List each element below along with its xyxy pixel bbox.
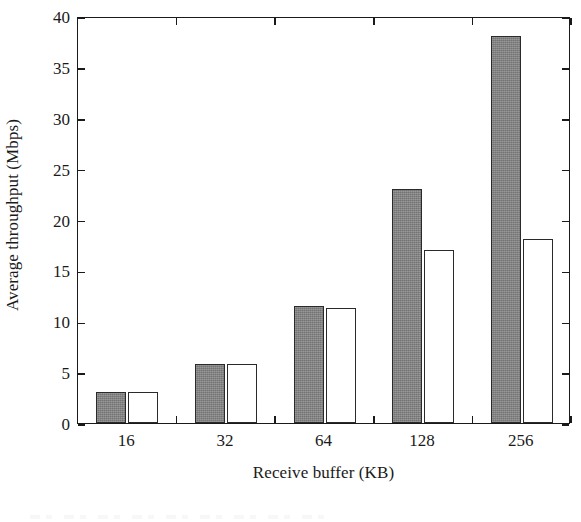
x-tick-mark <box>176 416 178 423</box>
x-tick-label: 64 <box>289 432 359 449</box>
y-tick-mark <box>78 272 85 274</box>
y-tick-mark <box>78 373 85 375</box>
bar-64-series-2-white <box>326 308 356 423</box>
bar-128-series-2-white <box>424 250 454 423</box>
y-axis-tick-labels: 0510152025303540 <box>28 0 70 522</box>
bar-16-series-1-gray <box>96 392 126 423</box>
y-tick-mark <box>78 323 85 325</box>
x-tick-label: 16 <box>91 432 161 449</box>
x-tick-mark <box>274 18 276 25</box>
x-tick-mark <box>570 416 572 423</box>
y-tick-mark <box>562 373 569 375</box>
bar-64-series-1-gray <box>294 306 324 423</box>
x-tick-mark <box>373 416 375 423</box>
bar-32-series-1-gray <box>195 364 225 423</box>
x-tick-mark <box>472 416 474 423</box>
x-tick-mark <box>472 18 474 25</box>
x-axis-title: Receive buffer (KB) <box>77 463 570 483</box>
y-tick-mark <box>78 221 85 223</box>
y-tick-label: 0 <box>28 416 70 433</box>
x-tick-mark <box>373 18 375 25</box>
y-tick-label: 40 <box>28 9 70 26</box>
y-tick-mark <box>562 170 569 172</box>
y-tick-label: 20 <box>28 212 70 229</box>
y-tick-mark <box>562 272 569 274</box>
y-tick-mark <box>562 119 569 121</box>
plot-area <box>77 17 570 424</box>
bar-chart-figure: Average throughput (Mbps) 05101520253035… <box>0 0 581 522</box>
y-tick-label: 10 <box>28 314 70 331</box>
y-tick-mark <box>78 119 85 121</box>
x-tick-label: 32 <box>190 432 260 449</box>
y-tick-mark <box>562 221 569 223</box>
y-tick-mark <box>78 424 85 426</box>
bar-16-series-2-white <box>128 392 158 423</box>
y-tick-mark <box>78 170 85 172</box>
y-tick-mark <box>562 17 569 19</box>
y-axis-title: Average throughput (Mbps) <box>0 0 26 430</box>
x-tick-label: 128 <box>387 432 457 449</box>
y-tick-mark <box>562 68 569 70</box>
bar-256-series-1-gray <box>491 36 521 423</box>
y-tick-label: 25 <box>28 161 70 178</box>
x-tick-mark <box>176 18 178 25</box>
y-tick-label: 5 <box>28 365 70 382</box>
x-tick-label: 256 <box>486 432 556 449</box>
y-tick-label: 15 <box>28 263 70 280</box>
bar-32-series-2-white <box>227 364 257 423</box>
y-tick-mark <box>562 323 569 325</box>
y-tick-mark <box>78 68 85 70</box>
y-tick-label: 30 <box>28 110 70 127</box>
y-tick-label: 35 <box>28 59 70 76</box>
bar-256-series-2-white <box>523 239 553 423</box>
y-tick-mark <box>562 424 569 426</box>
bar-128-series-1-gray <box>392 189 422 423</box>
x-axis-tick-labels: 163264128256 <box>77 432 570 458</box>
y-tick-mark <box>78 17 85 19</box>
x-tick-mark <box>570 18 572 25</box>
scan-artifact <box>30 515 330 519</box>
x-tick-mark <box>274 416 276 423</box>
